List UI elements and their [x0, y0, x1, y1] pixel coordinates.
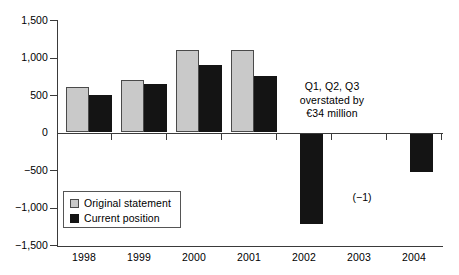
chart-legend: Original statement Current position — [63, 191, 181, 228]
bar-1998-current-position — [89, 95, 112, 133]
bar-2001-current-position — [254, 76, 277, 132]
x-axis-label-2004: 2004 — [386, 252, 442, 263]
x-axis-tick-7 — [441, 133, 442, 140]
x-axis-tick-1 — [111, 133, 112, 140]
y-axis-label-text: −1,500 — [0, 240, 48, 251]
bar-2001-original-statement — [231, 50, 254, 133]
y-axis-label-500: 500 — [0, 90, 48, 101]
legend-label-original-statement: Original statement — [84, 198, 171, 209]
y-axis-label-text: 0 — [0, 127, 48, 138]
x-axis-label-2001: 2001 — [221, 252, 277, 263]
x-axis-tick-4 — [276, 133, 277, 140]
y-axis-label-text: 1,000 — [0, 52, 48, 63]
bar-1999-current-position — [144, 84, 167, 133]
bar-2004-current-position — [410, 134, 433, 172]
y-axis-label-minus-500: −500 — [0, 165, 48, 176]
bar-2002-current-position — [300, 134, 323, 224]
x-axis-tick-2 — [166, 133, 167, 140]
x-axis-label-1998: 1998 — [56, 252, 112, 263]
x-axis-label-1999: 1999 — [111, 252, 167, 263]
y-axis-label-text: 500 — [0, 90, 48, 101]
footnote-marker: (−1) — [332, 192, 392, 203]
bar-chart: 1,500 1,000 500 0 −500 −1,000 −1,500 — [0, 0, 459, 275]
x-axis-line — [57, 246, 443, 247]
x-axis-label-2003: 2003 — [331, 252, 387, 263]
x-axis-tick-6 — [386, 133, 387, 140]
y-axis-label-text: −500 — [0, 165, 48, 176]
legend-swatch-original-statement-icon — [70, 199, 79, 208]
x-axis-tick-5 — [331, 133, 332, 140]
y-axis-label-0: 0 — [0, 127, 48, 138]
x-axis-label-2002: 2002 — [276, 252, 332, 263]
overstatement-annotation: Q1, Q2, Q3 overstated by €34 million — [280, 80, 384, 121]
y-axis-label-text: 1,500 — [0, 15, 48, 26]
y-axis-label-text: −1,000 — [0, 202, 48, 213]
bar-2000-current-position — [199, 65, 222, 133]
bar-2000-original-statement — [176, 50, 199, 133]
bar-1998-original-statement — [66, 87, 89, 132]
annotation-line-2: overstated by — [280, 94, 384, 108]
x-axis-tick-3 — [221, 133, 222, 140]
annotation-line-3: €34 million — [280, 107, 384, 121]
y-axis-label-minus-1000: −1,000 — [0, 202, 48, 213]
annotation-line-1: Q1, Q2, Q3 — [280, 80, 384, 94]
y-axis-label-minus-1500: −1,500 — [0, 240, 48, 251]
y-axis-label-1000: 1,000 — [0, 52, 48, 63]
bar-1999-original-statement — [121, 80, 144, 133]
legend-swatch-current-position-icon — [70, 214, 79, 223]
x-axis-label-2000: 2000 — [166, 252, 222, 263]
y-axis-label-1500: 1,500 — [0, 15, 48, 26]
legend-item-current-position: Current position — [70, 211, 180, 225]
legend-item-original-statement: Original statement — [70, 196, 180, 210]
legend-label-current-position: Current position — [84, 213, 160, 224]
